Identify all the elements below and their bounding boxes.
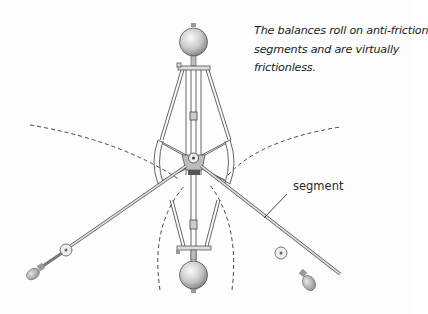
top-ball-weight [180, 23, 208, 66]
bottom-ball-weight [176, 246, 211, 293]
caption-line-3: frictionless. [254, 59, 414, 78]
caption-text: The balances roll on anti-friction segme… [254, 22, 414, 78]
central-pivot-hub [182, 153, 205, 175]
segment-leader-line [264, 194, 287, 218]
caption-line-2: segments and are virtually [254, 41, 414, 60]
caption-line-1: The balances roll on anti-friction [254, 22, 414, 41]
segment-label: segment [293, 179, 343, 193]
left-arm-with-knob [24, 166, 186, 282]
